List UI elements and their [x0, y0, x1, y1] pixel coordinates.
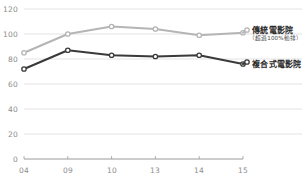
x-tick-10: 10 — [102, 166, 122, 175]
x-tick-15: 15 — [233, 166, 253, 175]
x-tick-13: 13 — [145, 166, 165, 175]
series-line-multiplex — [22, 48, 245, 71]
legend-note-traditional: （超過100%動排） — [249, 34, 302, 42]
x-tick-09: 09 — [58, 166, 78, 175]
series-line-traditional — [22, 24, 245, 55]
x-tick-14: 14 — [189, 166, 209, 175]
line-chart: 120 100 80 60 40 20 0 04 09 10 13 14 15 … — [0, 0, 307, 182]
x-tick-04: 04 — [14, 166, 34, 175]
legend-label-multiplex: 複合式電影院 — [252, 58, 302, 69]
